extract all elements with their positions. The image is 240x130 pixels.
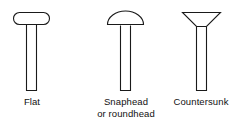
snaphead-rivet-head — [108, 11, 144, 25]
caption-snaphead-line-1: Snaphead — [78, 96, 174, 108]
flat-rivet-shank — [27, 25, 37, 91]
caption-countersunk-line-1: Countersunk — [162, 96, 240, 108]
rivet-snaphead — [108, 11, 144, 91]
snaphead-rivet-shank — [121, 26, 131, 91]
countersunk-rivet-head — [183, 13, 221, 27]
caption-flat-line-1: Flat — [0, 96, 64, 108]
caption-snaphead-line-2: or roundhead — [78, 108, 174, 120]
caption-flat: Flat — [0, 96, 64, 108]
caption-snaphead: Snaphead or roundhead — [78, 96, 174, 119]
flat-rivet-head — [14, 13, 50, 25]
countersunk-rivet-shank — [197, 27, 207, 91]
rivet-flat — [14, 13, 50, 91]
rivet-countersunk — [183, 13, 221, 91]
rivet-head-types-diagram: Flat Snaphead or roundhead Countersunk — [0, 0, 240, 130]
caption-countersunk: Countersunk — [162, 96, 240, 108]
